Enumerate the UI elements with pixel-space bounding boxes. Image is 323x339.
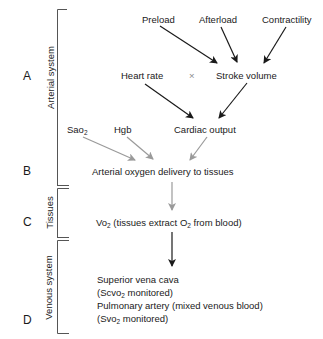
sao2-sub: 2 bbox=[84, 129, 88, 136]
section-letter-b: B bbox=[23, 165, 31, 177]
svo2-b: monitored) bbox=[120, 313, 168, 324]
node-contractility: Contractility bbox=[262, 14, 312, 25]
label-venous-system: Venous system bbox=[43, 249, 54, 327]
node-vo2: Vo2 (tissues extract O2 from blood) bbox=[96, 217, 242, 228]
node-hgb: Hgb bbox=[114, 124, 131, 135]
section-letter-c: C bbox=[23, 216, 32, 228]
arrow-afterload-to-stroke-volume bbox=[221, 27, 237, 62]
bracket-venous bbox=[58, 241, 70, 334]
node-stroke-volume: Stroke volume bbox=[216, 70, 277, 81]
node-pulmonary-artery: Pulmonary artery (mixed venous blood) bbox=[97, 300, 263, 311]
bracket-tissues bbox=[58, 189, 70, 239]
label-tissues: Tissues bbox=[44, 192, 55, 234]
node-superior-vena-cava: Superior vena cava bbox=[97, 274, 179, 285]
node-scvo2-monitored: (Scvo2 monitored) bbox=[97, 287, 173, 298]
vo2-text-b: from blood) bbox=[191, 217, 242, 228]
node-arterial-oxygen-delivery: Arterial oxygen delivery to tissues bbox=[92, 166, 234, 177]
svo2-a: (Svo bbox=[97, 313, 117, 324]
node-afterload: Afterload bbox=[199, 14, 237, 25]
node-preload: Preload bbox=[142, 14, 175, 25]
arrow-hgb-to-delivery bbox=[127, 137, 153, 159]
arrow-contractility-to-stroke-volume bbox=[264, 27, 286, 63]
node-svo2-monitored: (Svo2 monitored) bbox=[97, 313, 168, 324]
vo2-text-a: (tissues extract O bbox=[111, 217, 188, 228]
arrow-sao2-to-delivery bbox=[83, 137, 135, 160]
node-sao2: Sao2 bbox=[67, 124, 88, 135]
sao2-base: Sao bbox=[67, 124, 84, 135]
arrow-preload-to-stroke-volume bbox=[160, 26, 217, 63]
label-arterial-system: Arterial system bbox=[45, 38, 56, 118]
arrow-cardiac-output-to-delivery bbox=[190, 137, 207, 160]
section-letter-a: A bbox=[23, 70, 31, 82]
scvo2-a: (Scvo bbox=[97, 287, 121, 298]
node-cardiac-output: Cardiac output bbox=[174, 124, 236, 135]
multiply-symbol: × bbox=[189, 70, 195, 81]
bracket-arterial bbox=[58, 10, 70, 187]
section-letter-d: D bbox=[23, 314, 32, 326]
vo2-base: Vo bbox=[96, 217, 107, 228]
arrow-stroke-volume-to-cardiac-output bbox=[219, 83, 247, 118]
arrow-heart-rate-to-cardiac-output bbox=[145, 84, 193, 118]
scvo2-b: monitored) bbox=[125, 287, 173, 298]
node-heart-rate: Heart rate bbox=[121, 70, 163, 81]
